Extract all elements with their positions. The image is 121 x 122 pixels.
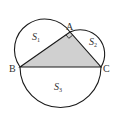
label-c: C [103, 63, 110, 74]
label-a: A [66, 21, 74, 32]
label-s3: S3 [54, 81, 62, 93]
geometry-diagram: A B C S1 S2 S3 [0, 0, 121, 122]
label-b: B [9, 63, 16, 74]
label-s2: S2 [89, 36, 97, 48]
label-s1: S1 [32, 31, 40, 43]
